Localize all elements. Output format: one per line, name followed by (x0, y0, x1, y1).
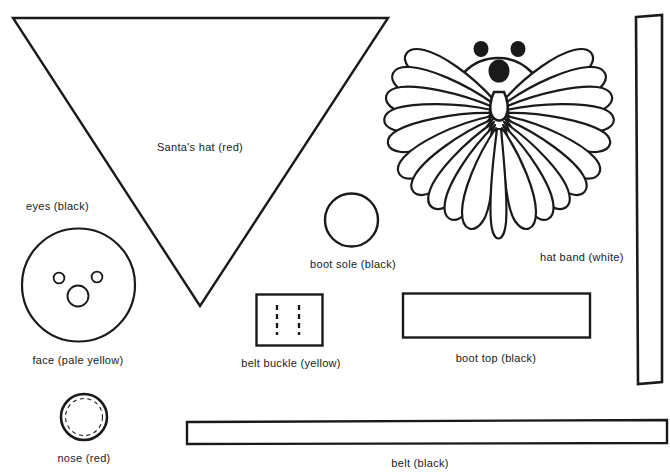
label-hat-band: hat band (white) (540, 251, 624, 263)
pompom-eye-left (474, 41, 489, 57)
label-belt: belt (black) (391, 457, 448, 469)
nose-shape (61, 394, 107, 440)
face-eye-right-shape (92, 272, 103, 283)
label-santa-hat: Santa's hat (red) (157, 141, 243, 153)
face-nose-shape (68, 286, 89, 307)
pompom-knot (490, 92, 507, 121)
label-belt-buckle: belt buckle (yellow) (241, 357, 341, 369)
nose-stitch-line (66, 399, 103, 436)
pompom-eye-right (511, 41, 526, 57)
boot-top-shape (403, 294, 590, 338)
belt-buckle-shape (257, 295, 323, 346)
pompom-santa-illustration (384, 41, 614, 239)
belt-shape (187, 420, 667, 444)
hat-band-shape (636, 15, 662, 384)
pompom-nose (489, 60, 510, 83)
label-boot-sole: boot sole (black) (310, 258, 396, 270)
pattern-artwork (0, 0, 670, 476)
label-eyes: eyes (black) (26, 200, 89, 212)
face-eye-left-shape (54, 273, 65, 284)
label-face: face (pale yellow) (33, 354, 124, 366)
label-boot-top: boot top (black) (456, 352, 537, 364)
boot-sole-shape (325, 194, 378, 247)
label-nose: nose (red) (57, 452, 110, 464)
pattern-sheet: Santa's hat (red) eyes (black) face (pal… (0, 0, 670, 476)
